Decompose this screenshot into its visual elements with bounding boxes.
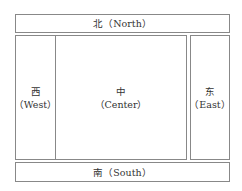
east-region: 东 （East） [190,35,230,160]
south-en: （South） [103,166,151,179]
east-en: （East） [189,98,230,111]
north-region: 北（North） [15,14,230,33]
center-zh: 中 [116,85,126,98]
north-zh: 北 [93,17,103,30]
west-zh: 西 [31,85,41,98]
south-region: 南（South） [15,162,230,182]
north-en: （North） [103,17,152,30]
center-region: 中 （Center） [55,35,187,160]
south-zh: 南 [93,166,103,179]
west-en: （West） [14,98,57,111]
west-region: 西 （West） [15,35,56,160]
center-en: （Center） [95,98,148,111]
east-zh: 东 [205,85,215,98]
